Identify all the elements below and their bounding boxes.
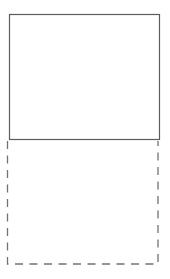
- two-rectangles-diagram: [0, 0, 170, 279]
- figure-canvas: [0, 0, 170, 279]
- dashed-rectangle: [8, 141, 159, 264]
- solid-rectangle: [10, 15, 160, 140]
